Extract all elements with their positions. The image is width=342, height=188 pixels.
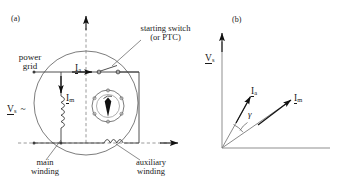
starting-switch xyxy=(97,40,141,74)
source-voltage-label: Vs~ xyxy=(7,99,26,116)
current-aux-subscript-a: a xyxy=(78,66,81,73)
current-main-label-a: Im xyxy=(66,88,74,105)
voltage-symbol-b: V xyxy=(205,53,212,64)
source-voltage-subscript: s xyxy=(14,107,17,114)
current-main-subscript-b: m xyxy=(297,96,302,103)
rotor-direction-arrow xyxy=(105,98,112,118)
figure-root: (a) power grid Vs~ Ia Im starting switch… xyxy=(0,0,342,188)
auxiliary-winding-line2: winding xyxy=(137,166,165,176)
rotor xyxy=(92,89,124,123)
auxiliary-winding-label: auxiliary winding xyxy=(120,158,182,176)
source-voltage-symbol: V xyxy=(7,104,14,115)
main-winding-coil xyxy=(61,96,65,128)
panel-b-tag: (b) xyxy=(232,16,241,24)
main-winding-label: main winding xyxy=(16,158,74,176)
voltage-subscript-b: s xyxy=(212,56,215,63)
current-aux-label-a: Ia xyxy=(75,58,81,75)
starting-switch-label: starting switch (or PTC) xyxy=(119,24,212,42)
gamma-arc xyxy=(240,123,248,131)
source-ac-symbol: ~ xyxy=(20,104,25,114)
gamma-angle-label: γ xyxy=(248,110,252,119)
phasor-diagram xyxy=(222,33,330,148)
current-aux-subscript-b: a xyxy=(254,89,257,96)
power-grid-line2: grid xyxy=(23,61,38,71)
panel-a-tag: (a) xyxy=(11,15,20,23)
main-winding-branch xyxy=(60,72,65,145)
current-main-label-b: Im xyxy=(294,88,302,105)
current-aux-label-b: Ia xyxy=(251,81,257,98)
starting-switch-leader xyxy=(112,40,141,66)
power-grid-label: power grid xyxy=(3,53,57,72)
voltage-label-b: Vs xyxy=(205,48,214,65)
starting-switch-line2: (or PTC) xyxy=(150,32,180,42)
current-main-subscript-a: m xyxy=(69,96,74,103)
main-winding-line2: winding xyxy=(31,166,59,176)
